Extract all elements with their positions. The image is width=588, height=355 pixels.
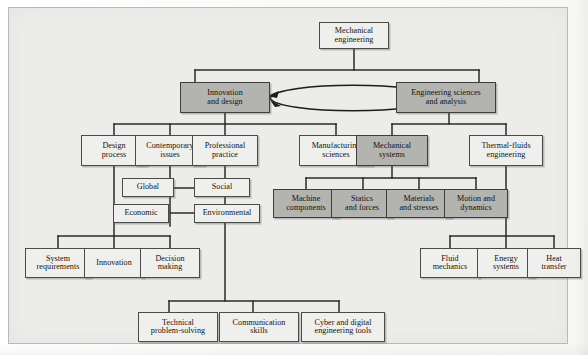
node-technical-problem-solving[interactable]: Technical problem-solving	[138, 312, 218, 342]
node-cyber-and-digital-engineering-tools[interactable]: Cyber and digital engineering tools	[301, 312, 385, 342]
node-thermal-fluids-engineering[interactable]: Thermal-fluids engineering	[469, 135, 543, 166]
node-label: Mechanical engineering	[335, 27, 374, 44]
node-heat-transfer[interactable]: Heat transfer	[527, 248, 581, 278]
node-label: Global	[137, 183, 159, 191]
diagram-canvas: Mechanical engineering Innovation and de…	[9, 8, 567, 343]
node-mechanical-engineering[interactable]: Mechanical engineering	[319, 22, 389, 49]
node-motion-and-dynamics[interactable]: Motion and dynamics	[444, 189, 508, 218]
node-label: Economic	[124, 209, 157, 217]
node-innovation-and-design[interactable]: Innovation and design	[180, 82, 270, 113]
node-label: Energy systems	[493, 255, 519, 272]
diagram-frame: Mechanical engineering Innovation and de…	[8, 7, 568, 344]
connector-lines	[9, 8, 567, 343]
node-label: Machine components	[286, 195, 326, 212]
figure-page: Mechanical engineering Innovation and de…	[0, 0, 588, 355]
node-label: Mechanical systems	[373, 142, 411, 159]
node-innovation[interactable]: Innovation	[84, 248, 144, 278]
node-label: Innovation	[96, 259, 132, 267]
node-label: Technical problem-solving	[151, 319, 205, 336]
node-label: System requirements	[37, 255, 80, 272]
node-label: Environmental	[203, 209, 252, 217]
node-label: Heat transfer	[541, 255, 566, 272]
node-label: Motion and dynamics	[457, 195, 495, 212]
node-label: Materials and stresses	[399, 195, 438, 212]
node-statics-and-forces[interactable]: Statics and forces	[331, 189, 393, 218]
node-economic[interactable]: Economic	[113, 204, 169, 223]
node-label: Contemporary issues	[146, 142, 193, 159]
node-label: Decision making	[155, 255, 184, 272]
node-label: Cyber and digital engineering tools	[314, 319, 371, 336]
node-decision-making[interactable]: Decision making	[140, 248, 200, 278]
node-mechanical-systems[interactable]: Mechanical systems	[356, 135, 428, 166]
node-social[interactable]: Social	[194, 178, 250, 197]
node-fluid-mechanics[interactable]: Fluid mechanics	[420, 248, 480, 278]
node-label: Statics and forces	[345, 195, 379, 212]
node-communication-skills[interactable]: Communication skills	[219, 312, 299, 342]
node-machine-components[interactable]: Machine components	[273, 189, 339, 218]
node-global[interactable]: Global	[122, 178, 174, 197]
node-engineering-sciences-and-analysis[interactable]: Engineering sciences and analysis	[396, 82, 496, 113]
node-professional-practice[interactable]: Professional practice	[192, 135, 258, 166]
node-label: Design process	[102, 142, 127, 159]
node-label: Communication skills	[233, 319, 286, 336]
node-materials-and-stresses[interactable]: Materials and stresses	[386, 189, 452, 218]
node-label: Engineering sciences and analysis	[411, 89, 481, 106]
node-label: Professional practice	[205, 142, 246, 159]
node-label: Fluid mechanics	[433, 255, 468, 272]
node-label: Manufacturing sciences	[312, 142, 361, 159]
node-label: Thermal-fluids engineering	[481, 142, 530, 159]
node-environmental[interactable]: Environmental	[194, 204, 260, 223]
node-system-requirements[interactable]: System requirements	[25, 248, 91, 278]
node-label: Social	[212, 183, 233, 191]
node-label: Innovation and design	[207, 89, 243, 106]
